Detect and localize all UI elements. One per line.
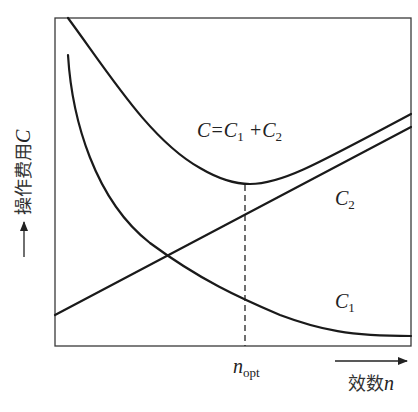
- c1-label: C1: [335, 290, 355, 315]
- chart: C=C1 +C2 C2 C1 nopt 效数n 操作费用C: [0, 0, 418, 412]
- y-axis-label: 操作费用C: [12, 129, 34, 215]
- n-opt-label: nopt: [233, 355, 260, 380]
- y-axis-label-group: 操作费用C: [12, 129, 34, 215]
- c1-curve: [68, 55, 411, 336]
- c2-curve: [55, 127, 411, 315]
- total-cost-curve: [68, 18, 411, 184]
- c2-label: C2: [335, 187, 355, 212]
- total-cost-label: C=C1 +C2: [197, 119, 282, 144]
- x-axis-label: 效数n: [348, 372, 394, 394]
